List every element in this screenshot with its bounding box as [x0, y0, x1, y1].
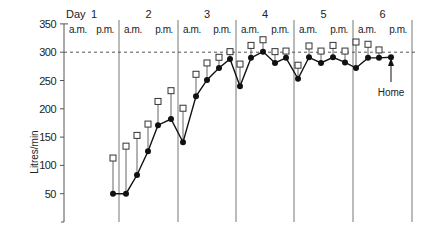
filled-circle-marker	[376, 55, 382, 61]
day-label: 1	[91, 8, 97, 20]
period-am: a.m.	[299, 24, 317, 35]
open-square-marker	[134, 132, 140, 138]
y-tick-label: 300	[39, 46, 56, 58]
filled-circle-marker	[283, 55, 289, 61]
y-tick-label: 50	[45, 188, 57, 200]
filled-circle-marker	[193, 93, 199, 99]
open-square-marker	[145, 121, 151, 127]
open-square-marker	[365, 41, 371, 47]
home-label: Home	[378, 87, 405, 98]
open-square-marker	[330, 42, 336, 48]
pre-bronchodilator-line	[113, 52, 391, 194]
filled-circle-marker	[342, 59, 348, 65]
filled-circle-marker	[272, 60, 278, 66]
period-pm: p.m.	[330, 24, 348, 35]
markers	[110, 37, 394, 197]
filled-circle-marker	[204, 77, 210, 83]
day-label: 4	[262, 8, 268, 20]
filled-circle-marker	[227, 56, 233, 62]
open-square-marker	[237, 61, 243, 67]
filled-circle-marker	[134, 172, 140, 178]
open-square-marker	[318, 48, 324, 54]
filled-circle-marker	[330, 54, 336, 60]
open-square-marker	[342, 48, 348, 54]
home-annotation: Home	[378, 58, 405, 98]
period-am: a.m.	[183, 24, 201, 35]
open-square-marker	[227, 49, 233, 55]
open-square-marker	[248, 42, 254, 48]
y-tick-label: 150	[39, 131, 56, 143]
y-tick-label: 200	[39, 103, 56, 115]
open-square-marker	[204, 60, 210, 66]
period-am: a.m.	[358, 24, 376, 35]
period-am: a.m.	[124, 24, 142, 35]
period-pm: p.m.	[96, 24, 114, 35]
period-am: a.m.	[69, 24, 87, 35]
day-label: 2	[145, 8, 151, 20]
period-am: a.m.	[241, 24, 259, 35]
filled-circle-marker	[237, 83, 243, 89]
y-tick-label: 350	[39, 18, 56, 30]
open-square-marker	[180, 105, 186, 111]
open-square-marker	[216, 54, 222, 60]
open-square-marker	[306, 43, 312, 49]
open-square-marker	[353, 39, 359, 45]
filled-circle-marker	[145, 148, 151, 154]
open-square-marker	[260, 37, 266, 43]
open-square-marker	[295, 62, 301, 68]
axes: 50100150200250300350	[39, 18, 68, 222]
filled-circle-marker	[155, 122, 161, 128]
open-square-marker	[123, 143, 129, 149]
y-tick-label: 100	[39, 159, 56, 171]
open-square-marker	[155, 98, 161, 104]
filled-circle-marker	[216, 65, 222, 71]
open-square-marker	[272, 49, 278, 55]
period-pm: p.m.	[155, 24, 173, 35]
open-square-marker	[193, 71, 199, 77]
open-square-marker	[168, 88, 174, 94]
period-pm: p.m.	[271, 24, 289, 35]
day-label: 5	[320, 8, 326, 20]
filled-circle-marker	[168, 116, 174, 122]
open-square-marker	[110, 155, 116, 161]
filled-circle-marker	[306, 54, 312, 60]
peak-flow-chart: 50100150200250300350 Day1a.m.p.m.2a.m.p.…	[0, 0, 431, 237]
filled-circle-marker	[180, 139, 186, 145]
filled-circle-marker	[353, 65, 359, 71]
period-pm: p.m.	[389, 24, 407, 35]
open-square-marker	[376, 47, 382, 53]
day-header-label: Day	[66, 8, 86, 20]
filled-circle-marker	[248, 55, 254, 61]
filled-circle-marker	[365, 55, 371, 61]
filled-circle-marker	[110, 191, 116, 197]
day-label: 6	[379, 8, 385, 20]
period-pm: p.m.	[213, 24, 231, 35]
filled-circle-marker	[295, 76, 301, 82]
bronchodilator-stems	[113, 43, 379, 194]
y-axis-label: Litres/min	[29, 130, 40, 173]
filled-circle-marker	[123, 191, 129, 197]
filled-circle-marker	[318, 60, 324, 66]
filled-circle-marker	[260, 49, 266, 55]
open-square-marker	[283, 48, 289, 54]
day-label: 3	[204, 8, 210, 20]
y-tick-label: 250	[39, 75, 56, 87]
